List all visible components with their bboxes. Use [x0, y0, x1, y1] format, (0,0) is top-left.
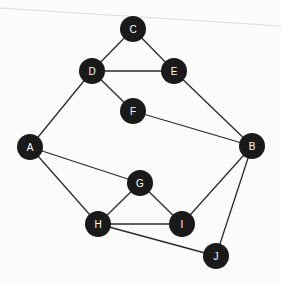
node-label: H [94, 219, 101, 230]
node-label: E [171, 66, 178, 77]
edge-i-b [182, 146, 252, 224]
node-f: F [120, 98, 146, 124]
graph-canvas: ABCDEFGHIJ [0, 0, 281, 284]
node-label: A [27, 142, 34, 153]
node-label: D [88, 66, 95, 77]
node-d: D [79, 58, 105, 84]
edge-b-j [216, 146, 252, 256]
node-c: C [120, 16, 146, 42]
node-a: A [17, 134, 43, 160]
node-label: J [214, 251, 219, 262]
node-label: B [249, 141, 256, 152]
node-e: E [161, 58, 187, 84]
node-g: G [127, 170, 153, 196]
node-h: H [85, 211, 111, 237]
node-label: C [129, 24, 136, 35]
node-label: G [136, 178, 144, 189]
nodes-group: ABCDEFGHIJ [17, 16, 265, 269]
node-label: F [130, 106, 136, 117]
edge-h-j [98, 224, 216, 256]
node-b: B [239, 133, 265, 159]
edges-group [30, 29, 252, 256]
graph-diagram: ABCDEFGHIJ [0, 0, 281, 284]
node-label: I [181, 219, 184, 230]
node-i: I [169, 211, 195, 237]
node-j: J [203, 243, 229, 269]
edge-d-a [30, 71, 92, 147]
